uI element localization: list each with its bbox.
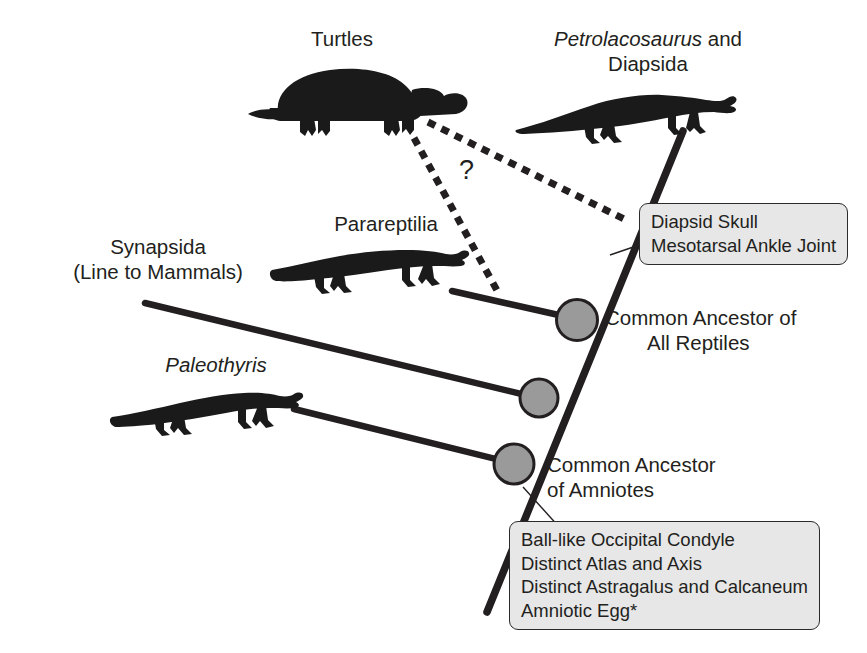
taxon-label-petrolacosaurus-diapsida: Petrolacosaurus and Diapsida bbox=[528, 26, 768, 76]
taxon-label-paleothyris: Paleothyris bbox=[126, 352, 306, 377]
branch-parareptilia bbox=[452, 291, 572, 318]
callout-item-amniotic-egg: Amniotic Egg* bbox=[521, 599, 808, 623]
petrolacosaurus-genus-name: Petrolacosaurus bbox=[554, 27, 702, 50]
amniotes-node-line2: of Amniotes bbox=[547, 478, 654, 501]
callout-amniote-traits: Ball-like Occipital Condyle Distinct Atl… bbox=[509, 521, 820, 630]
callout-item-diapsid-skull: Diapsid Skull bbox=[651, 210, 836, 234]
petrolacosaurus-and-word: and bbox=[702, 27, 742, 50]
diapsida-label: Diapsida bbox=[608, 52, 688, 75]
callout-item-occipital-condyle: Ball-like Occipital Condyle bbox=[521, 528, 808, 552]
dashed-link-turtles-to-diapsids bbox=[428, 122, 628, 221]
callout-diapsid-traits: Diapsid Skull Mesotarsal Ankle Joint bbox=[639, 203, 848, 265]
silhouette-parareptilia bbox=[270, 250, 469, 294]
node-label-common-ancestor-reptiles: Common Ancestor of All Reptiles bbox=[605, 305, 796, 355]
node-common-ancestor-amniotes bbox=[494, 444, 534, 484]
node-middle bbox=[520, 379, 558, 417]
callout-item-atlas-axis: Distinct Atlas and Axis bbox=[521, 552, 808, 576]
taxon-label-parareptilia: Parareptilia bbox=[306, 211, 466, 236]
taxon-label-turtles: Turtles bbox=[292, 26, 392, 51]
synapsida-line1: Synapsida bbox=[110, 235, 206, 258]
callout-item-mesotarsal-ankle: Mesotarsal Ankle Joint bbox=[651, 234, 836, 258]
node-common-ancestor-reptiles bbox=[557, 300, 598, 341]
amniotes-node-line1: Common Ancestor bbox=[547, 453, 716, 476]
cladogram-canvas: Turtles Petrolacosaurus and Diapsida Par… bbox=[0, 0, 867, 653]
silhouette-petrolacosaurus bbox=[515, 95, 736, 144]
question-mark: ? bbox=[459, 155, 474, 186]
silhouette-paleothyris bbox=[110, 393, 303, 436]
reptiles-node-line2: All Reptiles bbox=[605, 330, 750, 355]
callout-item-astragalus-calcaneum: Distinct Astragalus and Calcaneum bbox=[521, 575, 808, 599]
taxon-label-synapsida: Synapsida (Line to Mammals) bbox=[50, 234, 266, 284]
node-label-common-ancestor-amniotes: Common Ancestor of Amniotes bbox=[547, 452, 716, 502]
branch-paleothyris bbox=[294, 409, 512, 463]
synapsida-line2: (Line to Mammals) bbox=[73, 260, 243, 283]
reptiles-node-line1: Common Ancestor of bbox=[605, 306, 796, 329]
branch-synapsida bbox=[145, 303, 538, 398]
